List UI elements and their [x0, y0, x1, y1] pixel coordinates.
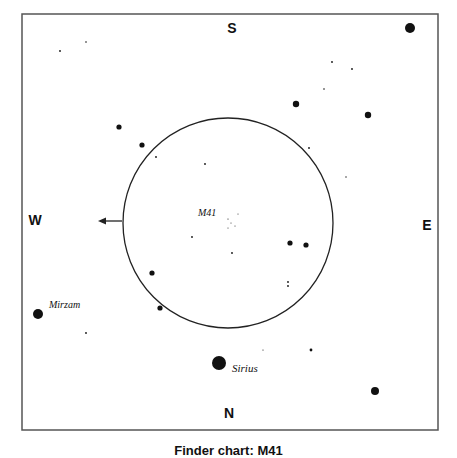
star	[85, 332, 87, 334]
star	[323, 88, 325, 90]
star	[308, 147, 310, 149]
star	[365, 112, 371, 118]
star	[149, 270, 154, 275]
star	[262, 349, 263, 350]
star	[228, 228, 229, 229]
star	[238, 214, 239, 215]
star	[293, 101, 299, 107]
star	[371, 387, 379, 395]
label-mirzam: Mirzam	[48, 299, 80, 310]
field-of-view-circle	[123, 118, 333, 328]
star	[155, 156, 157, 158]
chart-caption: Finder chart: M41	[0, 443, 457, 458]
star	[204, 163, 206, 165]
star	[345, 176, 346, 177]
star	[331, 61, 333, 63]
direction-north: N	[224, 405, 234, 421]
star	[231, 223, 232, 224]
star	[116, 124, 121, 129]
direction-east: E	[422, 217, 431, 233]
star	[191, 236, 193, 238]
west-arrow-icon	[98, 218, 122, 225]
star	[351, 68, 353, 70]
star-field	[33, 23, 415, 395]
star	[287, 281, 289, 283]
star-sirius	[212, 356, 226, 370]
star	[310, 349, 313, 352]
star	[231, 252, 233, 254]
label-sirius: Sirius	[232, 362, 258, 374]
star	[157, 305, 162, 310]
star	[303, 242, 308, 247]
label-m41: M41	[197, 207, 216, 218]
star	[235, 226, 236, 227]
direction-south: S	[227, 20, 236, 36]
star-mirzam	[33, 309, 43, 319]
star	[405, 23, 415, 33]
direction-west: W	[28, 212, 42, 228]
star	[139, 142, 144, 147]
star	[287, 240, 292, 245]
star	[287, 285, 289, 287]
star	[227, 218, 228, 219]
star	[59, 50, 61, 52]
star	[85, 41, 87, 43]
chart-frame	[22, 14, 438, 430]
